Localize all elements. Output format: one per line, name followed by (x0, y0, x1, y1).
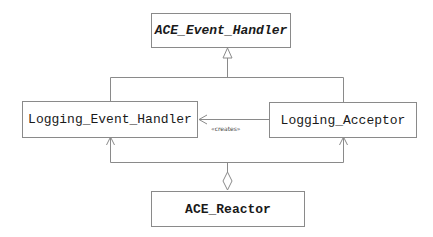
creates-stereotype-label: «creates» (211, 125, 241, 132)
aggregation-diamond (223, 172, 232, 190)
class-ace-event-handler: ACE_Event_Handler (151, 13, 291, 48)
class-ace-reactor: ACE_Reactor (151, 191, 305, 227)
class-label: Logging_Event_Handler (28, 112, 192, 127)
generalization-triangle (223, 48, 232, 58)
class-label: ACE_Reactor (185, 202, 271, 217)
class-logging-event-handler: Logging_Event_Handler (22, 101, 198, 138)
class-label: ACE_Event_Handler (155, 23, 288, 38)
uml-class-diagram: ACE_Event_Handler Logging_Event_Handler … (0, 0, 433, 237)
class-label: Logging_Acceptor (281, 113, 406, 128)
class-logging-acceptor: Logging_Acceptor (269, 102, 417, 138)
